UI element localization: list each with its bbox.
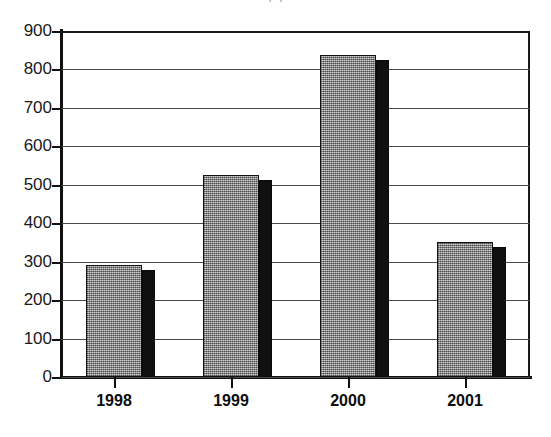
plot-area — [62, 31, 530, 377]
bar-side-shadow — [493, 247, 506, 377]
bar-face — [437, 242, 493, 377]
y-axis-tick — [52, 377, 61, 379]
bar — [203, 175, 272, 377]
y-axis-tick-label: 500 — [24, 176, 52, 193]
bar — [320, 55, 389, 377]
y-axis-tick — [52, 69, 61, 71]
y-axis-tick — [52, 223, 61, 225]
x-axis-tick-label: 2001 — [447, 392, 483, 410]
x-axis-tick — [114, 377, 116, 388]
gridline — [62, 146, 530, 147]
y-axis-tick-label: 600 — [24, 137, 52, 154]
y-axis-labels: 0100200300400500600700800900 — [0, 0, 52, 437]
bar-face — [320, 55, 376, 377]
bar — [437, 242, 506, 377]
y-axis-tick-label: 700 — [24, 99, 52, 116]
chart-title-clipped: ( ) — [0, 0, 551, 2]
y-axis-tick — [52, 31, 61, 33]
bar-side-shadow — [142, 270, 155, 377]
plot-frame-top — [62, 31, 530, 33]
y-axis-tick — [52, 108, 61, 110]
y-axis-tick-label: 400 — [24, 214, 52, 231]
gridline — [62, 69, 530, 70]
gridline — [62, 108, 530, 109]
bar-side-shadow — [376, 60, 389, 377]
bar-side-shadow — [259, 180, 272, 377]
x-axis-tick — [231, 377, 233, 388]
bar-chart: ( ) 0100200300400500600700800900 1998199… — [0, 0, 551, 437]
y-axis-tick — [52, 262, 61, 264]
x-axis-tick-label: 1998 — [96, 392, 132, 410]
y-axis-tick-label: 900 — [24, 22, 52, 39]
y-axis-tick — [52, 300, 61, 302]
bar-face — [86, 265, 142, 377]
bar-face — [203, 175, 259, 377]
y-axis-tick — [52, 146, 61, 148]
y-axis-tick-label: 0 — [43, 368, 52, 385]
x-axis-tick-label: 1999 — [213, 392, 249, 410]
y-axis-tick — [52, 185, 61, 187]
y-axis-tick — [52, 339, 61, 341]
x-axis-tick-label: 2000 — [330, 392, 366, 410]
y-axis-tick-label: 100 — [24, 330, 52, 347]
y-axis-tick-label: 800 — [24, 60, 52, 77]
gridline — [62, 377, 530, 378]
x-axis-tick — [348, 377, 350, 388]
gridline — [62, 185, 530, 186]
y-axis-tick-label: 200 — [24, 291, 52, 308]
bar — [86, 265, 155, 377]
y-axis-tick-label: 300 — [24, 253, 52, 270]
x-axis-tick — [465, 377, 467, 388]
gridline — [62, 223, 530, 224]
plot-frame-right — [528, 31, 530, 377]
